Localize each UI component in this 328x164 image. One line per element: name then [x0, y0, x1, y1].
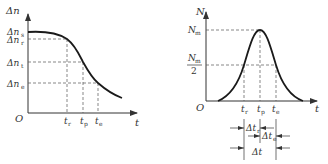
svg-text:r: r [245, 108, 248, 115]
left-y-tick-e: Δn e [6, 79, 25, 90]
right-x-axis-label: t [315, 103, 320, 114]
svg-text:Δn: Δn [6, 35, 19, 45]
left-chart: Δn t O Δn s Δn r Δn t Δn e t r t p t [5, 5, 140, 128]
svg-text:e: e [276, 108, 280, 115]
left-x-axis-label: t [135, 117, 140, 128]
left-x-tick-r: t r [64, 116, 71, 127]
left-y-axis-label: Δn [5, 5, 20, 16]
left-origin-label: O [15, 113, 23, 124]
right-y-tick-half: N m 2 [187, 53, 202, 76]
svg-text:Δn: Δn [6, 58, 19, 68]
right-origin-label: O [196, 102, 204, 113]
svg-text:e: e [99, 120, 103, 127]
svg-text:p: p [261, 108, 265, 116]
right-x-tick-e: t e [272, 104, 280, 115]
svg-text:e: e [21, 83, 25, 90]
svg-text:2: 2 [191, 66, 197, 76]
left-decay-curve [28, 32, 122, 98]
right-y-tick-peak: N m [187, 25, 201, 36]
svg-text:s: s [21, 31, 24, 38]
right-y-axis-label: N [195, 6, 206, 17]
svg-text:Δt: Δt [251, 147, 262, 157]
svg-text:e: e [273, 135, 277, 142]
svg-text:Δt: Δt [261, 131, 272, 141]
right-chart: N t O N m N m 2 t r t p t e [187, 6, 320, 160]
svg-text:Δt: Δt [245, 123, 256, 133]
right-x-tick-p: t p [257, 104, 265, 116]
svg-text:m: m [195, 29, 201, 36]
svg-text:m: m [195, 57, 201, 64]
dim-delta-t: Δt [230, 147, 290, 157]
right-x-tick-r: t r [241, 104, 248, 115]
svg-text:r: r [68, 120, 71, 127]
left-y-tick-t: Δn t [6, 58, 24, 69]
right-pulse-curve [218, 30, 303, 101]
left-x-tick-p: t p [80, 116, 88, 128]
svg-text:Δn: Δn [6, 79, 19, 89]
svg-text:r: r [21, 39, 24, 46]
left-x-tick-e: t e [95, 116, 103, 127]
svg-text:p: p [84, 120, 88, 128]
svg-text:r: r [257, 127, 260, 134]
svg-text:t: t [21, 62, 24, 69]
